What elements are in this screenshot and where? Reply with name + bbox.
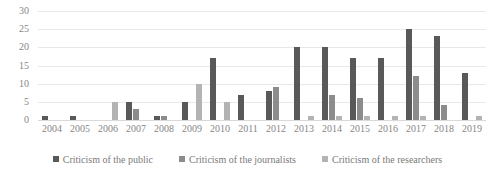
x-axis-tick-label: 2005 [66, 122, 94, 138]
bar-2012-series-1 [273, 87, 279, 120]
x-axis-tick-label: 2016 [374, 122, 402, 138]
bar-2017-series-0 [406, 29, 412, 120]
legend-label: Criticism of the journalists [189, 154, 296, 165]
bar-2016-series-0 [378, 58, 384, 120]
bar-group-2018 [430, 11, 458, 120]
x-axis-tick-label: 2019 [458, 122, 486, 138]
bar-2019-series-2 [476, 116, 482, 120]
x-axis-tick-label: 2018 [430, 122, 458, 138]
bar-2015-series-1 [357, 98, 363, 120]
legend-swatch-icon [179, 156, 185, 162]
bar-group-2017 [402, 11, 430, 120]
x-axis-tick-label: 2009 [178, 122, 206, 138]
bar-group-2019 [458, 11, 486, 120]
y-axis-tick-label: 15 [19, 61, 29, 71]
bar-2014-series-1 [329, 95, 335, 120]
bar-2008-series-1 [161, 116, 167, 120]
bar-group-2011 [234, 11, 262, 120]
bar-2005-series-0 [70, 116, 76, 120]
bar-2009-series-0 [182, 102, 188, 120]
bar-2018-series-0 [434, 36, 440, 120]
bar-group-2005 [66, 11, 94, 120]
x-axis: 2004200520062007200820092010201120122013… [38, 122, 486, 138]
legend-swatch-icon [53, 156, 59, 162]
bar-series-container [38, 11, 486, 120]
bar-2010-series-0 [210, 58, 216, 120]
bar-group-2004 [38, 11, 66, 120]
legend-swatch-icon [322, 156, 328, 162]
bar-2006-series-2 [112, 102, 118, 120]
bar-2008-series-0 [154, 116, 160, 120]
axis-baseline [38, 120, 486, 121]
x-axis-tick-label: 2007 [122, 122, 150, 138]
bar-group-2014 [318, 11, 346, 120]
y-axis-tick-label: 10 [19, 79, 29, 89]
x-axis-tick-label: 2012 [262, 122, 290, 138]
bar-2011-series-0 [238, 95, 244, 120]
chart-legend: Criticism of the publicCriticism of the … [0, 150, 495, 168]
bar-chart: 302520151050 200420052006200720082009201… [0, 0, 495, 173]
bar-2015-series-2 [364, 116, 370, 120]
bar-2007-series-1 [133, 109, 139, 120]
x-axis-tick-label: 2013 [290, 122, 318, 138]
bar-group-2013 [290, 11, 318, 120]
y-axis-tick-label: 25 [19, 24, 29, 34]
legend-label: Criticism of the public [63, 154, 153, 165]
y-axis-tick-label: 5 [24, 97, 29, 107]
bar-group-2006 [94, 11, 122, 120]
bar-2019-series-0 [462, 73, 468, 120]
legend-item-2[interactable]: Criticism of the researchers [322, 154, 442, 165]
bar-group-2012 [262, 11, 290, 120]
bar-group-2007 [122, 11, 150, 120]
legend-item-0[interactable]: Criticism of the public [53, 154, 153, 165]
bar-2015-series-0 [350, 58, 356, 120]
bar-group-2008 [150, 11, 178, 120]
x-axis-tick-label: 2010 [206, 122, 234, 138]
y-axis: 302520151050 [0, 0, 34, 131]
bar-2016-series-2 [392, 116, 398, 120]
bar-2010-series-2 [224, 102, 230, 120]
bar-2004-series-0 [42, 116, 48, 120]
y-axis-tick-label: 20 [19, 42, 29, 52]
bar-2017-series-1 [413, 76, 419, 120]
bar-2017-series-2 [420, 116, 426, 120]
x-axis-tick-label: 2006 [94, 122, 122, 138]
y-axis-tick-label: 0 [24, 115, 29, 125]
x-axis-tick-label: 2015 [346, 122, 374, 138]
bar-group-2009 [178, 11, 206, 120]
legend-item-1[interactable]: Criticism of the journalists [179, 154, 296, 165]
bar-group-2016 [374, 11, 402, 120]
bar-2013-series-0 [294, 47, 300, 120]
y-axis-tick-label: 30 [19, 6, 29, 16]
x-axis-tick-label: 2014 [318, 122, 346, 138]
bar-2012-series-0 [266, 91, 272, 120]
x-axis-tick-label: 2017 [402, 122, 430, 138]
bar-group-2010 [206, 11, 234, 120]
bar-2007-series-0 [126, 102, 132, 120]
bar-2013-series-2 [308, 116, 314, 120]
x-axis-tick-label: 2008 [150, 122, 178, 138]
bar-2018-series-1 [441, 105, 447, 120]
bar-2014-series-2 [336, 116, 342, 120]
bar-group-2015 [346, 11, 374, 120]
bar-2014-series-0 [322, 47, 328, 120]
x-axis-tick-label: 2004 [38, 122, 66, 138]
x-axis-tick-label: 2011 [234, 122, 262, 138]
bar-2009-series-2 [196, 84, 202, 120]
legend-label: Criticism of the researchers [332, 154, 442, 165]
